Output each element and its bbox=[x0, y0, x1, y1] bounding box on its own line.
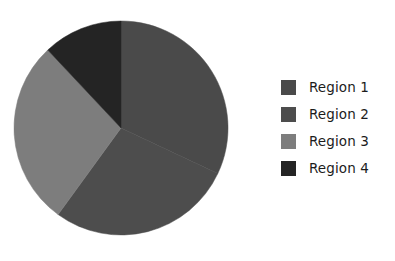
legend-label-region-1: Region 1 bbox=[309, 81, 369, 95]
pie-slice-group bbox=[14, 21, 228, 235]
legend-item-region-4[interactable]: Region 4 bbox=[281, 155, 391, 182]
legend-item-region-1[interactable]: Region 1 bbox=[281, 74, 391, 101]
legend-label-region-4: Region 4 bbox=[309, 162, 369, 176]
pie-svg bbox=[0, 0, 250, 261]
legend-item-region-2[interactable]: Region 2 bbox=[281, 101, 391, 128]
legend-swatch-icon-region-2 bbox=[281, 107, 296, 122]
pie-plot-area bbox=[0, 0, 250, 261]
pie-chart-figure: Region 1 Region 2 Region 3 Region 4 bbox=[0, 0, 395, 261]
legend-item-region-3[interactable]: Region 3 bbox=[281, 128, 391, 155]
legend-swatch-icon-region-1 bbox=[281, 80, 296, 95]
legend-label-region-2: Region 2 bbox=[309, 108, 369, 122]
chart-legend: Region 1 Region 2 Region 3 Region 4 bbox=[281, 74, 391, 182]
legend-label-region-3: Region 3 bbox=[309, 135, 369, 149]
legend-swatch-icon-region-3 bbox=[281, 134, 296, 149]
legend-swatch-icon-region-4 bbox=[281, 161, 296, 176]
